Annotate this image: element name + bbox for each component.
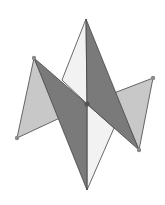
- vertex-upper-left-dot: [32, 56, 36, 60]
- folded-star-figure: [0, 0, 165, 205]
- diagram-canvas: [0, 0, 165, 205]
- vertex-lower-left-dot: [15, 136, 19, 140]
- vertex-center-dot: [84, 101, 89, 106]
- vertex-lower-right-dot: [137, 148, 141, 152]
- vertex-upper-right-dot: [151, 76, 155, 80]
